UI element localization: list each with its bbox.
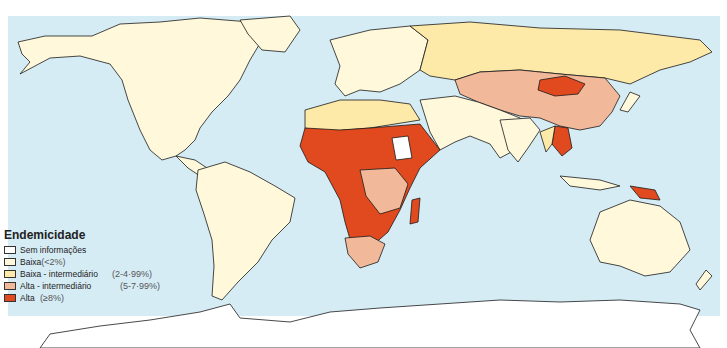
legend-range: (5-7·99%) [120,281,160,291]
legend: Endemicidade Sem informações Baixa (<2%)… [4,228,160,304]
legend-item-high-intermediate: Alta - intermediário (5-7·99%) [4,280,160,292]
legend-swatch [4,258,16,266]
legend-label: Alta - intermediário [20,281,120,291]
region-africa-no-info [392,136,412,160]
region-madagascar [410,198,420,224]
legend-label: Baixa [20,257,41,267]
legend-range: (2-4·99%) [112,269,152,279]
legend-item-high: Alta (≥8%) [4,292,160,304]
legend-item-low-intermediate: Baixa - intermediário (2-4·99%) [4,268,160,280]
legend-label: Baixa - intermediário [20,269,112,279]
legend-swatch [4,246,16,254]
legend-range: (<2%) [41,257,65,267]
legend-item-low: Baixa (<2%) [4,256,160,268]
legend-title: Endemicidade [4,228,160,242]
legend-swatch [4,294,16,302]
legend-swatch [4,282,16,290]
legend-swatch [4,270,16,278]
legend-label: Sem informações [20,245,86,255]
legend-item-no-info: Sem informações [4,244,160,256]
legend-label: Alta [20,293,40,303]
legend-range: (≥8%) [40,293,64,303]
